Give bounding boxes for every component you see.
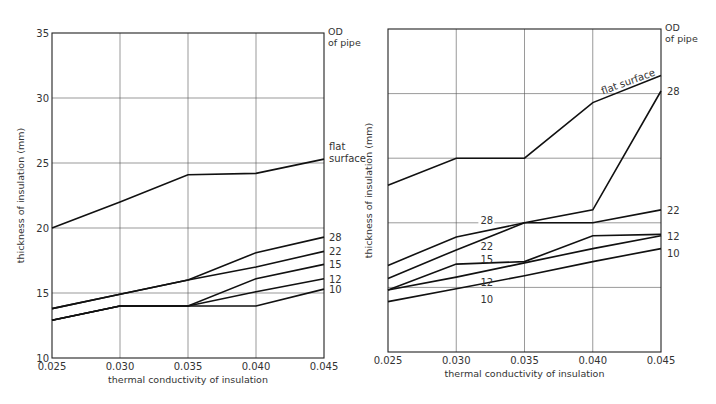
x-tick-label: 0.025 [374,355,403,366]
series-label-22: 22 [329,246,342,257]
legend-title: OD [665,22,680,33]
x-tick-label: 0.030 [442,355,471,366]
series-label-flat-surface: flat surface [600,67,657,97]
series-label-inline-12: 12 [480,277,493,288]
series-label-flat-surface: surface [329,153,366,164]
x-axis-label: thermal conductivity of insulation [445,368,605,379]
chart-right: 0.0250.0300.0350.0400.045thermal conduct… [363,22,698,379]
x-tick-label: 0.045 [647,355,676,366]
y-tick-label: 25 [36,158,49,169]
y-tick-label: 20 [36,223,49,234]
series-label-10: 10 [329,284,342,295]
series-label-28: 28 [329,232,342,243]
series-label-inline-10: 10 [480,294,493,305]
series-label-right-28: 28 [667,86,680,97]
x-tick-label: 0.045 [310,361,339,372]
series-label-right-10: 10 [667,248,680,259]
x-tick-label: 0.030 [106,361,135,372]
series-label-right-22: 22 [667,205,680,216]
series-label-inline-28: 28 [480,215,493,226]
y-tick-label: 15 [36,288,49,299]
series-label-flat-surface: flat [329,141,345,152]
x-axis-label: thermal conductivity of insulation [108,374,268,385]
y-tick-label: 30 [36,93,49,104]
series-label-right-12: 12 [667,231,680,242]
y-axis-label: thickness of insulation (mm) [15,128,26,263]
series-label-inline-22: 22 [480,241,493,252]
series-label-12: 12 [329,274,342,285]
x-tick-label: 0.035 [510,355,539,366]
x-tick-label: 0.040 [578,355,607,366]
chart-left: 1015202530350.0250.0300.0350.0400.045the… [15,26,366,385]
legend-title: OD [328,26,343,37]
x-tick-label: 0.025 [38,361,67,372]
figure-canvas: 1015202530350.0250.0300.0350.0400.045the… [0,0,716,404]
x-tick-label: 0.035 [174,361,203,372]
legend-title: of pipe [328,37,361,48]
legend-title: of pipe [665,33,698,44]
series-label-15: 15 [329,259,342,270]
series-label-inline-15: 15 [480,254,493,265]
y-axis-label: thickness of insulation (mm) [363,123,374,258]
x-tick-label: 0.040 [242,361,271,372]
y-tick-label: 35 [36,28,49,39]
